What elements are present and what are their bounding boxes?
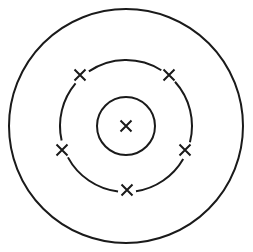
electron-cross-icon [180,145,191,156]
atom-diagram [0,0,253,252]
electron-cross-icon [57,145,68,156]
shell-arc [175,82,192,143]
nucleus-cross-icon [121,121,132,132]
shell-arc [136,159,183,191]
electron-cross-icon [75,70,86,81]
electron-cross-icon [164,70,175,81]
shell-arc [68,157,118,191]
electron-cross-icon [122,185,133,196]
shell-arc [60,83,76,140]
shell-arc [89,60,161,71]
